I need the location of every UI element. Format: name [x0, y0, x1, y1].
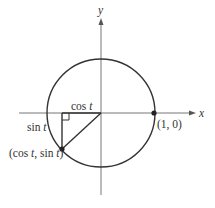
right-angle-marker	[62, 113, 69, 120]
unit-point-dot	[151, 110, 156, 115]
y-axis-arrow-icon	[99, 18, 104, 25]
sin-label: sin t	[27, 121, 47, 133]
cos-label: cos t	[71, 100, 93, 112]
x-axis-label: x	[198, 107, 205, 119]
terminal-point-label: (cos t, sin t)	[9, 147, 64, 160]
x-axis-arrow-icon	[189, 111, 196, 116]
y-axis-label: y	[97, 4, 104, 17]
unit-circle-diagram: x y cos t sin t (cos t, sin t) (1, 0)	[0, 0, 215, 208]
radius-hypotenuse	[62, 113, 101, 149]
diagram-svg: x y cos t sin t (cos t, sin t) (1, 0)	[0, 0, 215, 208]
unit-point-label: (1, 0)	[157, 118, 182, 131]
